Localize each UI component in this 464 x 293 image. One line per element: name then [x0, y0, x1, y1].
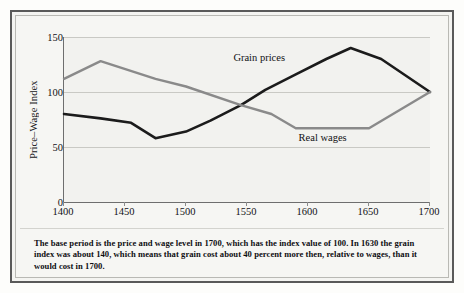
- y-tick-label: 50: [35, 142, 63, 153]
- x-tick-label: 1550: [224, 206, 268, 217]
- x-tick-label: 1450: [102, 206, 146, 217]
- chart-area: Price–Wage Index 150 100 50 0 Grain pr: [16, 16, 448, 220]
- figure-outer-frame: Price–Wage Index 150 100 50 0 Grain pr: [10, 10, 454, 283]
- y-axis-tick-labels: 150 100 50 0: [33, 16, 63, 220]
- series-label-grain-prices: Grain prices: [233, 52, 285, 63]
- x-tick-label: 1500: [163, 206, 207, 217]
- x-tick-label: 1400: [41, 206, 85, 217]
- y-tick-label: 100: [35, 87, 63, 98]
- figure-panel: Price–Wage Index 150 100 50 0 Grain pr: [0, 0, 464, 293]
- x-tick-label: 1700: [407, 206, 451, 217]
- line-real-wages: [64, 61, 430, 128]
- x-tick-label: 1600: [285, 206, 329, 217]
- series-label-real-wages: Real wages: [299, 132, 347, 143]
- plot-region: Grain prices Real wages: [63, 37, 430, 202]
- caption-divider: [20, 228, 444, 229]
- y-tick-label: 150: [35, 32, 63, 43]
- figure-inner-frame: Price–Wage Index 150 100 50 0 Grain pr: [15, 15, 449, 278]
- figure-caption: The base period is the price and wage le…: [34, 238, 430, 272]
- x-tick-label: 1650: [346, 206, 390, 217]
